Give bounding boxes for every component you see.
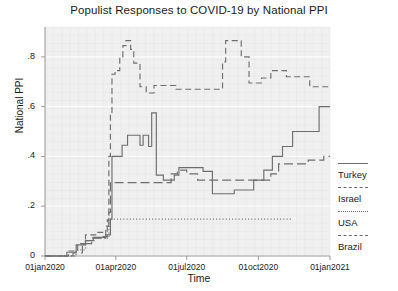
legend-label: Turkey (338, 169, 367, 180)
x-tick-label: 01jan2021 (298, 262, 362, 272)
x-tick-label: 01jan2020 (13, 262, 77, 272)
chart-title: Populist Responses to COVID-19 by Nation… (0, 4, 398, 16)
chart-figure: Populist Responses to COVID-19 by Nation… (0, 0, 398, 291)
y-tick-label: .2 (9, 200, 35, 210)
legend-label: USA (338, 217, 358, 228)
legend-item-usa[interactable]: USA (338, 208, 396, 232)
legend-label: Brazil (338, 241, 362, 252)
x-axis-label: Time (0, 272, 398, 284)
x-tick-label: 01oct2020 (226, 262, 290, 272)
y-tick-label: .4 (9, 150, 35, 160)
x-tick-label: 01jul2020 (155, 262, 219, 272)
legend-item-brazil[interactable]: Brazil (338, 232, 396, 256)
legend-label: Israel (338, 193, 361, 204)
y-tick-label: 0 (9, 250, 35, 260)
y-tick-label: .6 (9, 101, 35, 111)
legend-item-turkey[interactable]: Turkey (338, 160, 396, 184)
legend-item-israel[interactable]: Israel (338, 184, 396, 208)
chart-legend: Turkey Israel USA Brazil (338, 160, 396, 256)
y-tick-label: .8 (9, 51, 35, 61)
x-tick-label: 01apr2020 (84, 262, 148, 272)
